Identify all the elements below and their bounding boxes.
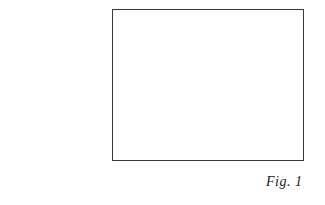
figure-caption: Fig. 1: [266, 174, 302, 190]
figure-frame: [112, 9, 304, 161]
